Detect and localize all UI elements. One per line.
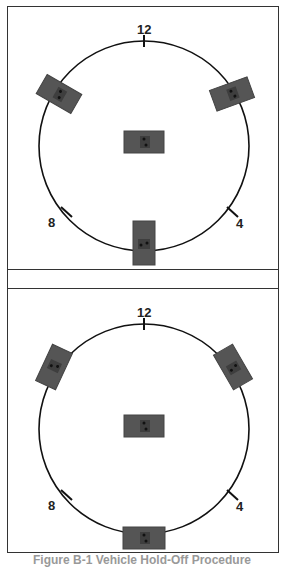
vehicle-bottom [133,221,155,265]
vehicle-center [124,131,164,153]
top-panel: 12 8 4 [7,6,279,270]
vehicle-center [124,415,164,437]
label-8: 8 [48,498,55,513]
figure-caption: Figure B-1 Vehicle Hold-Off Procedure [0,554,284,566]
label-12: 12 [137,22,151,37]
vehicle-bottom [123,527,165,549]
vehicle-upper-right [213,344,252,390]
label-4: 4 [236,499,244,514]
label-8: 8 [48,215,55,230]
label-4: 4 [236,216,244,231]
panel-divider [7,269,279,289]
top-diagram: 12 8 4 [8,7,280,271]
bottom-panel: 12 8 4 [7,288,279,553]
vehicle-upper-right [209,77,254,111]
vehicle-upper-left [36,74,82,113]
bottom-diagram: 12 8 4 [8,289,280,554]
label-12: 12 [137,305,151,320]
vehicle-upper-left [36,344,73,390]
